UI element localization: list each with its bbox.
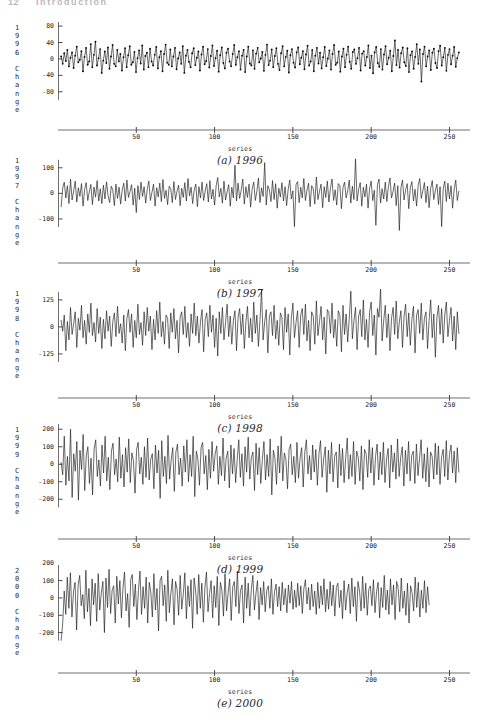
y-axis-title-char: 1: [10, 24, 24, 32]
y-tick-label: 100: [42, 444, 54, 451]
y-axis-title-char: a: [10, 483, 24, 491]
figure-caption: (e) 2000: [0, 697, 480, 709]
plot-canvas: [58, 22, 476, 134]
y-axis-title-char: 9: [10, 32, 24, 40]
y-axis-title-char: C: [10, 467, 24, 475]
y-axis-title: 1999 Change: [10, 426, 24, 516]
y-tick-label: 100: [42, 578, 54, 585]
y-axis-title-char: [10, 57, 24, 65]
y-tick-label: -200: [38, 630, 54, 637]
x-axis-title: series: [0, 145, 480, 153]
x-tick-label: 100: [209, 402, 221, 409]
y-axis-title-char: e: [10, 508, 24, 516]
y-axis-title-char: 0: [10, 592, 24, 600]
y-tick-label: 100: [42, 165, 54, 172]
y-tick-label: 40: [46, 40, 54, 47]
y-tick-label: 125: [42, 297, 54, 304]
x-tick-label: 150: [287, 134, 299, 141]
y-tick-label: -80: [42, 89, 54, 96]
y-tick-label: -100: [38, 612, 54, 619]
y-axis-title-char: 9: [10, 306, 24, 314]
x-axis-title: series: [0, 413, 480, 421]
x-axis-title: series: [0, 688, 480, 696]
y-axis-title-char: C: [10, 608, 24, 616]
x-tick-label: 150: [287, 543, 299, 550]
y-axis-title-char: [10, 190, 24, 198]
x-tick-label: 150: [287, 267, 299, 274]
y-axis-title-char: e: [10, 106, 24, 114]
y-axis-title: 1997 Change: [10, 157, 24, 247]
y-axis-title-char: e: [10, 239, 24, 247]
y-tick-label: 200: [42, 426, 54, 433]
y-axis-title-char: g: [10, 500, 24, 508]
y-axis-title-char: e: [10, 372, 24, 380]
y-axis-title-char: 9: [10, 442, 24, 450]
y-axis-title-char: a: [10, 214, 24, 222]
y-axis-title-char: 9: [10, 451, 24, 459]
y-axis-title-char: 1: [10, 290, 24, 298]
x-tick-label: 250: [444, 677, 456, 684]
y-axis-title: 2000 Change: [10, 567, 24, 657]
y-axis-title-char: C: [10, 331, 24, 339]
x-tick-label: 250: [444, 267, 456, 274]
x-tick-label: 50: [132, 134, 140, 141]
y-axis-title-char: 9: [10, 173, 24, 181]
y-axis-title-char: e: [10, 649, 24, 657]
y-tick-label: 0: [50, 595, 54, 602]
y-axis-title-char: h: [10, 206, 24, 214]
y-tick-label: -200: [38, 496, 54, 503]
y-axis-title-char: 6: [10, 49, 24, 57]
x-tick-label: 100: [209, 267, 221, 274]
x-axis-title: series: [0, 554, 480, 562]
x-tick-label: 250: [444, 402, 456, 409]
y-tick-labels: 1250-125: [24, 288, 54, 368]
x-tick-label: 250: [444, 134, 456, 141]
x-tick-label: 100: [209, 677, 221, 684]
page-number: 12: [8, 0, 19, 7]
x-tick-labels: 50100150200250: [58, 677, 476, 687]
y-axis-title-char: h: [10, 475, 24, 483]
y-axis-title-char: n: [10, 492, 24, 500]
y-axis-title-char: 9: [10, 40, 24, 48]
y-axis-title-char: 0: [10, 575, 24, 583]
plot-canvas: [58, 565, 476, 677]
x-tick-label: 100: [209, 134, 221, 141]
y-tick-labels: 1000-100: [24, 155, 54, 233]
y-axis-title-char: 1: [10, 157, 24, 165]
y-axis-title-char: a: [10, 347, 24, 355]
y-axis-title-char: a: [10, 624, 24, 632]
plot-canvas: [58, 155, 476, 267]
x-tick-label: 200: [365, 543, 377, 550]
y-tick-label: 200: [42, 560, 54, 567]
running-head: 12 Introduction: [0, 0, 480, 9]
y-tick-label: 0: [50, 461, 54, 468]
y-axis-title-char: 7: [10, 182, 24, 190]
y-tick-label: 0: [50, 56, 54, 63]
x-tick-labels: 50100150200250: [58, 543, 476, 553]
y-axis-title-char: 1: [10, 426, 24, 434]
y-tick-labels: 2001000-100-200: [24, 565, 54, 643]
y-tick-label: -100: [38, 216, 54, 223]
y-axis-title-char: 8: [10, 315, 24, 323]
y-tick-label: 80: [46, 23, 54, 30]
plot-canvas: [58, 288, 476, 402]
y-axis-title-char: g: [10, 364, 24, 372]
x-tick-label: 200: [365, 402, 377, 409]
y-tick-label: 0: [50, 190, 54, 197]
y-axis-title-char: C: [10, 198, 24, 206]
x-tick-label: 200: [365, 134, 377, 141]
y-tick-label: -125: [38, 351, 54, 358]
x-tick-label: 100: [209, 543, 221, 550]
y-tick-label: -40: [42, 72, 54, 79]
y-axis-title-char: g: [10, 641, 24, 649]
x-tick-labels: 50100150200250: [58, 267, 476, 277]
y-axis-title: 1996 Change: [10, 24, 24, 114]
x-tick-labels: 50100150200250: [58, 134, 476, 144]
y-axis-title-char: 2: [10, 567, 24, 575]
y-axis-title-char: 0: [10, 583, 24, 591]
y-axis-title-char: 9: [10, 298, 24, 306]
y-axis-title-char: 9: [10, 434, 24, 442]
x-axis-title: series: [0, 278, 480, 286]
x-tick-label: 200: [365, 267, 377, 274]
y-tick-label: -100: [38, 479, 54, 486]
